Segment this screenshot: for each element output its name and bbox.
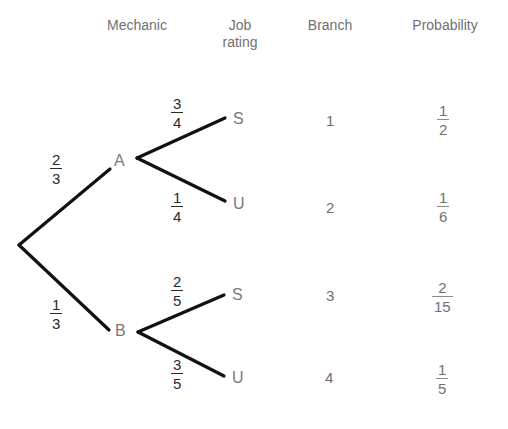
fraction-bar	[171, 290, 183, 291]
header-job-rating-line1: Job	[210, 17, 270, 34]
node-a: A	[114, 153, 125, 169]
fraction-bar	[432, 296, 453, 297]
header-probability: Probability	[395, 17, 495, 34]
branch-number-4: 4	[325, 369, 333, 386]
prob-b-u: 3 5	[171, 357, 183, 391]
node-b: B	[115, 323, 126, 339]
branch-probability-1: 1 2	[437, 103, 449, 137]
fraction-bar	[436, 378, 448, 379]
fraction-bar	[50, 168, 62, 169]
prob-a-u: 1 4	[171, 190, 183, 224]
node-a-u: U	[233, 196, 245, 212]
branch-number-1: 1	[326, 112, 334, 129]
prob-root-a: 2 3	[50, 152, 62, 186]
header-job-rating: Job rating	[210, 17, 270, 51]
prob-b-s: 2 5	[171, 274, 183, 308]
fraction-bar	[437, 119, 449, 120]
prob-a-s: 3 4	[171, 96, 183, 130]
fraction-bar	[171, 373, 183, 374]
branch-probability-3: 2 15	[432, 280, 453, 314]
fraction-bar	[171, 206, 183, 207]
branch-number-3: 3	[326, 287, 334, 304]
prob-root-b: 1 3	[50, 297, 62, 331]
probability-tree-lines	[0, 0, 508, 429]
branch-probability-2: 1 6	[437, 190, 449, 224]
node-b-s: S	[232, 287, 243, 303]
fraction-bar	[437, 206, 449, 207]
node-a-s: S	[233, 111, 244, 127]
header-branch: Branch	[295, 17, 365, 34]
header-job-rating-line2: rating	[210, 34, 270, 51]
node-b-u: U	[232, 370, 244, 386]
branch-number-2: 2	[326, 199, 334, 216]
fraction-bar	[171, 112, 183, 113]
branch-root-to-a	[19, 169, 110, 245]
fraction-bar	[50, 313, 62, 314]
header-mechanic: Mechanic	[92, 17, 182, 34]
branch-root-to-b	[19, 245, 109, 330]
branch-probability-4: 1 5	[436, 362, 448, 396]
